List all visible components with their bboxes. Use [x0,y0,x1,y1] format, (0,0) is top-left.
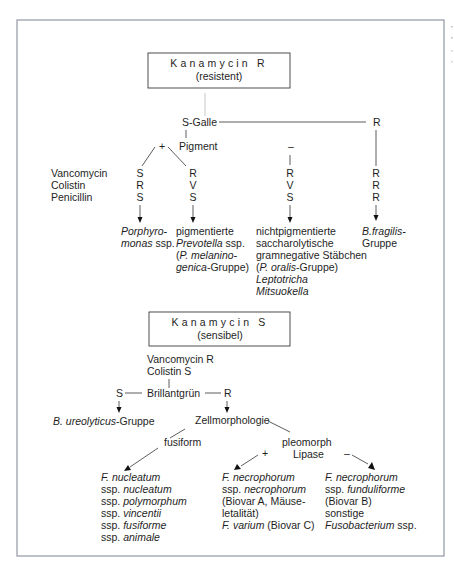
lipase-label: Lipase [293,448,324,460]
result-prevotella-line1: pigmentierte [176,225,234,237]
result-fnecrophorum-lipase-plus: F. necrophorum ssp. necrophorum (Biovar … [222,471,315,531]
fusiform-arrow-line [130,448,158,467]
page-edge-marks [451,26,453,63]
pigment-label: Pigment [179,140,218,152]
arrow-icon [234,464,241,470]
lipase-plus-arrow-line [241,455,258,466]
result-porphyromonas-line2: monas ssp. [121,237,175,249]
fnec-plus-line3: (Biovar A, Mäuse- [222,495,306,507]
result-b-ureolyticus: B. ureolyticus-Gruppe [53,415,155,427]
lipase-plus: + [262,447,268,459]
result-fnecrophorum-lipase-minus: F. necrophorum ssp. funduliforme (Biovar… [325,471,417,531]
column-prevotella: R V S pigmentierte Prevotella ssp. (P. m… [176,167,249,273]
result-nonpig-line4: (P. oralis-Gruppe) [256,261,338,273]
identification-flowchart: Kanamycin R (resistent) S-Galle R Pigmen… [0,0,454,584]
col2-penicillin: S [189,191,196,203]
column-nonpigmented: R V S nichtpigmentierte saccharolytische… [256,167,367,297]
result-nonpig-line2: saccharolytische [256,237,334,249]
zellmorphologie-label: Zellmorphologie [195,414,270,426]
col2-vancomycin: R [189,167,197,179]
result-bfragilis-line1: B.fragilis- [362,225,406,237]
result-fnucleatum: F. nucleatum ssp. nucleatum ssp. polymor… [101,471,187,543]
label-colistin: Colistin [51,179,86,191]
fnucleatum-line5: ssp. fusiforme [101,519,167,531]
brillantgruen-label: Brillantgrün [147,387,200,399]
brillantgruen-r: R [224,387,232,399]
brillantgruen-s: S [116,387,123,399]
arrow-down-icon [288,217,293,223]
col4-vancomycin: R [372,167,380,179]
column-porphyromonas: S R S Porphyro- monas ssp. [121,167,175,249]
fnec-plus-line4: letalität) [222,507,259,519]
fnucleatum-line6: ssp. animale [101,531,160,543]
fnec-minus-line2: ssp. funduliforme [325,483,405,495]
label-vancomycin: Vancomycin [51,167,108,179]
fusiform-label: fusiform [164,436,202,448]
result-prevotella-line4: genica-Gruppe) [176,261,249,273]
result-bfragilis-line2: Gruppe [362,237,397,249]
fnec-plus-line5: F. varium (Biovar C) [222,519,315,531]
column-bfragilis: R R R B.fragilis- Gruppe [362,167,406,249]
zell-to-pleomorph [268,421,290,432]
label-penicillin: Penicillin [51,191,93,203]
plus-branch-left [142,147,155,166]
kanamycin-r-box: Kanamycin R (resistent) [148,53,290,88]
arrow-down-icon [117,407,122,413]
result-prevotella-line3: (P. melanino- [176,249,238,261]
col3-colistin: V [286,179,293,191]
kanamycin-s-box: Kanamycin S (sensibel) [149,312,290,346]
s-galle-r-label: R [373,116,381,128]
col4-penicillin: R [372,191,380,203]
arrow-down-icon [225,407,230,413]
arrow-down-icon [191,217,196,223]
result-prevotella-line2: Prevotella ssp. [176,237,245,249]
fnec-minus-line3: (Biovar B) [325,495,372,507]
fnec-plus-line1: F. necrophorum [222,471,295,483]
kanamycin-s-title: Kanamycin S [171,316,268,328]
col1-penicillin: S [136,191,143,203]
condition-colistin-s: Colistin S [147,365,191,377]
pigment-plus: + [159,140,165,152]
result-porphyromonas-line1: Porphyro- [121,225,168,237]
result-leptotricha: Leptotricha [256,273,308,285]
arrow-icon [368,462,375,470]
col3-vancomycin: R [286,167,294,179]
kanamycin-r-title: Kanamycin R [170,57,268,69]
pleomorph-label: pleomorph [282,436,332,448]
fnec-minus-line1: F. necrophorum [325,471,398,483]
kanamycin-s-subtitle: (sensibel) [197,329,243,341]
result-nonpig-line1: nichtpigmentierte [256,225,336,237]
fnucleatum-line1: F. nucleatum [101,471,161,483]
lipase-minus: – [344,447,350,459]
fnucleatum-line4: ssp. vincentii [101,507,162,519]
lipase-minus-arrow-line [352,455,368,464]
fnec-minus-line5: Fusobacterium ssp. [325,519,417,531]
fnec-plus-line2: ssp. necrophorum [222,483,306,495]
col1-colistin: R [136,179,144,191]
pigment-minus: – [288,140,294,152]
col1-vancomycin: S [136,167,143,179]
fnec-minus-line4: sonstige [325,507,364,519]
condition-vancomycin-r: Vancomycin R [147,353,214,365]
antibiotic-labels: Vancomycin Colistin Penicillin [51,167,108,203]
result-nonpig-line3: gramnegative Stäbchen [256,249,367,261]
col2-colistin: V [189,179,196,191]
fnucleatum-line3: ssp. polymorphum [101,495,187,507]
arrow-down-icon [138,217,143,223]
arrow-down-icon [374,215,379,221]
s-galle-label: S-Galle [182,116,217,128]
col4-colistin: R [372,179,380,191]
result-mitsuokella: Mitsuokella [256,285,309,297]
fnucleatum-line2: ssp. nucleatum [101,483,172,495]
col3-penicillin: S [286,191,293,203]
kanamycin-r-subtitle: (resistent) [196,70,243,82]
